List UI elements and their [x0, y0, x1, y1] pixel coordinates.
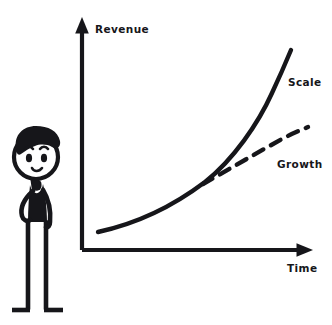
- left-eye: [26, 154, 32, 163]
- doodle-illustration: Revenue Time Scale Growth: [0, 0, 332, 325]
- chart-axes: [75, 17, 313, 257]
- series-line-scale: [98, 50, 291, 232]
- chart-series: [98, 50, 308, 232]
- stick-figure-person: [12, 126, 63, 310]
- series-label-growth: Growth: [277, 158, 323, 170]
- y-axis-arrowhead-icon: [75, 17, 89, 34]
- x-axis-arrowhead-icon: [297, 243, 314, 257]
- y-axis-label: Revenue: [95, 23, 149, 35]
- right-eye: [41, 154, 47, 163]
- illustration-canvas: Revenue Time Scale Growth: [0, 0, 332, 325]
- series-label-scale: Scale: [288, 76, 322, 88]
- x-axis-label: Time: [287, 262, 317, 274]
- series-line-growth: [203, 127, 308, 184]
